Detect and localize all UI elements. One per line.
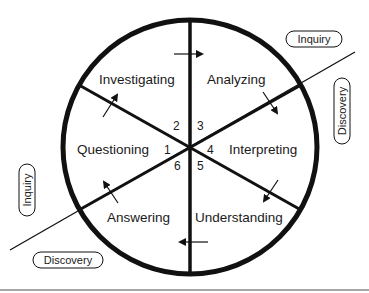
tag-discovery-bottom-left: Discovery — [44, 254, 93, 266]
segment-number-4: 4 — [207, 143, 214, 157]
inquiry-discovery-cycle-diagram: Investigating Analyzing Questioning Inte… — [0, 0, 369, 293]
segment-label-interpreting: Interpreting — [229, 142, 297, 157]
segment-number-1: 1 — [164, 143, 171, 157]
tag-inquiry-top-right: Inquiry — [297, 33, 331, 45]
arrow-answering-to-questioning-icon — [104, 182, 118, 203]
segment-label-answering: Answering — [107, 210, 170, 225]
segment-label-understanding: Understanding — [195, 210, 283, 225]
segment-label-investigating: Investigating — [99, 72, 175, 87]
tag-discovery-right: Discovery — [336, 86, 348, 135]
segment-number-6: 6 — [174, 159, 181, 173]
segment-label-questioning: Questioning — [77, 142, 149, 157]
tag-inquiry-left: Inquiry — [21, 173, 33, 207]
segment-number-3: 3 — [197, 119, 204, 133]
segment-label-analyzing: Analyzing — [207, 72, 266, 87]
segment-number-5: 5 — [197, 159, 204, 173]
segment-number-2: 2 — [173, 119, 180, 133]
arrow-analyzing-to-interpreting-icon — [263, 92, 277, 113]
